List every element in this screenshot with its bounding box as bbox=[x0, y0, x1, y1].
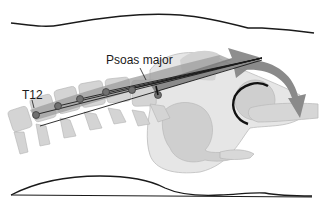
coccyx bbox=[220, 150, 254, 160]
anatomy-figure: Psoas major T12 bbox=[0, 0, 323, 206]
t12-label: T12 bbox=[22, 89, 43, 101]
back-contour-line bbox=[11, 14, 314, 33]
baseline bbox=[11, 195, 312, 197]
psoas-major-label: Psoas major bbox=[106, 54, 173, 66]
femur bbox=[248, 103, 318, 122]
abdominal-contour-line bbox=[11, 176, 312, 196]
psoas-illustration bbox=[0, 0, 323, 206]
